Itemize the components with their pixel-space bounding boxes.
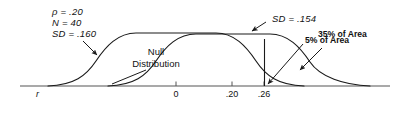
axis-name-r: r — [36, 90, 39, 99]
parameter-n: N = 40 — [52, 18, 81, 28]
sd-null-leader-line — [83, 41, 97, 55]
five-percent-leader-line — [268, 44, 303, 84]
null-distribution-label-line2: Distribution — [118, 59, 194, 69]
statistics-distribution-figure: ρ = .20 N = 40 SD = .160 Null Distributi… — [0, 0, 398, 121]
sd-alt-leader-line — [252, 22, 266, 31]
parameter-rho: ρ = .20 — [52, 7, 83, 17]
sd-alternative-label: SD = .154 — [272, 14, 316, 24]
area-label-five-percent: 5% of Area — [305, 36, 349, 45]
tick-label-26: .26 — [251, 90, 277, 99]
tick-label-20: .20 — [219, 90, 245, 99]
parameter-sd-null: SD = .160 — [52, 29, 96, 39]
null-distribution-label-line1: Null — [128, 47, 184, 57]
tick-label-0: 0 — [163, 90, 189, 99]
thirtyfive-percent-leader-line — [300, 48, 322, 70]
